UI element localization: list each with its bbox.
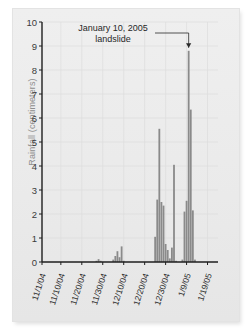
- y-tick-label: 2: [19, 209, 37, 220]
- y-tick-label: 6: [19, 113, 37, 124]
- y-tick-label: 3: [19, 185, 37, 196]
- y-tick-label: 7: [19, 89, 37, 100]
- y-tick-label: 10: [19, 17, 37, 28]
- annotation-line-1: January 10, 2005: [69, 23, 157, 34]
- y-tick-label: 1: [19, 233, 37, 244]
- annotation-line-2: landslide: [69, 34, 157, 45]
- y-tick-label: 8: [19, 65, 37, 76]
- chart-figure: Rainfall (centimeters) 012345678910 11/1…: [0, 0, 252, 335]
- plot-container: Rainfall (centimeters) 012345678910 11/1…: [13, 9, 239, 321]
- y-tick-label: 9: [19, 41, 37, 52]
- y-tick-label: 4: [19, 161, 37, 172]
- landslide-annotation: January 10, 2005 landslide: [69, 23, 157, 45]
- y-tick-label: 0: [19, 257, 37, 268]
- figure-panel: Rainfall (centimeters) 012345678910 11/1…: [13, 9, 239, 321]
- y-tick-label: 5: [19, 137, 37, 148]
